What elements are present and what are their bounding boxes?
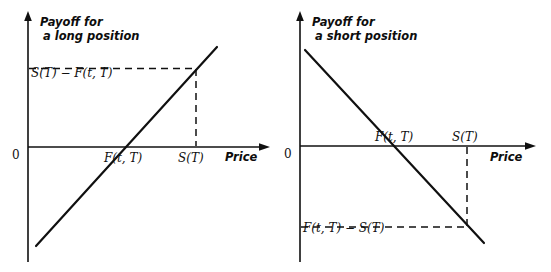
long-position-svg: Payoff for a long position 0 S(T) − F(t,…: [0, 0, 275, 272]
payoff-diagram-figure: Payoff for a long position 0 S(T) − F(t,…: [0, 0, 551, 272]
chart-title-line1: Payoff for: [312, 15, 376, 29]
chart-long-position: Payoff for a long position 0 S(T) − F(t,…: [0, 0, 275, 272]
chart-title-line2: a long position: [43, 29, 139, 43]
xtick-label-forward-price: F(t, T): [374, 130, 413, 144]
y-axis-long: [24, 11, 32, 262]
y-axis-arrow-icon: [24, 11, 32, 21]
xtick-label-spot-price: S(T): [452, 130, 478, 144]
origin-label: 0: [12, 148, 20, 162]
x-axis-arrow-icon: [259, 143, 270, 151]
x-axis-label: Price: [490, 150, 523, 164]
short-position-svg: Payoff for a short position 0 F(t, T) − …: [275, 0, 551, 272]
origin-label: 0: [284, 147, 292, 161]
x-axis-short: [300, 142, 536, 150]
payoff-value-label: F(t, T) − S(T): [302, 221, 385, 235]
x-axis-label: Price: [225, 150, 258, 164]
chart-title-line1: Payoff for: [40, 15, 104, 29]
x-axis-arrow-icon: [525, 142, 536, 150]
payoff-value-label: S(T) − F(t, T): [31, 66, 113, 80]
xtick-label-forward-price: F(t, T): [103, 151, 142, 165]
chart-short-position: Payoff for a short position 0 F(t, T) − …: [275, 0, 551, 272]
y-axis-arrow-icon: [296, 11, 304, 21]
chart-title-line2: a short position: [315, 29, 417, 43]
xtick-label-spot-price: S(T): [178, 151, 204, 165]
